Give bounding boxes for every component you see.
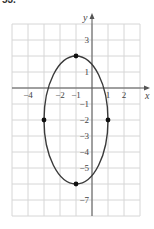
vertex-point: [74, 182, 79, 187]
vertex-point: [106, 118, 111, 123]
vertex-point: [74, 54, 79, 59]
y-tick-label: −5: [79, 163, 89, 173]
x-tick-label: −4: [23, 90, 33, 100]
x-tick-label: 2: [122, 90, 127, 100]
y-tick-label: 3: [85, 35, 90, 45]
grid: [12, 24, 140, 216]
ellipse-graph: xy −4−2−11231−1−2−3−4−5−7: [0, 0, 154, 229]
y-tick-label: 1: [85, 67, 90, 77]
y-axis-arrow-icon: [90, 13, 95, 19]
y-tick-label: −2: [79, 115, 89, 125]
x-axis-label: x: [144, 90, 150, 101]
axes: xy: [12, 12, 150, 216]
y-axis-label: y: [82, 12, 88, 23]
x-tick-label: −2: [55, 90, 65, 100]
vertex-point: [42, 118, 47, 123]
y-tick-label: −3: [79, 131, 89, 141]
y-tick-label: −4: [79, 147, 89, 157]
y-tick-label: −7: [79, 195, 89, 205]
y-tick-label: −1: [79, 99, 89, 109]
